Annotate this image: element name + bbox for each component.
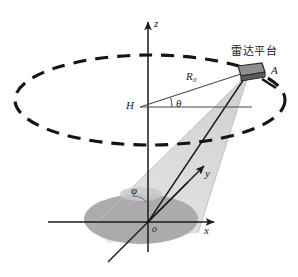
altitude-label-H: H (126, 100, 134, 111)
diagram-canvas (0, 0, 298, 277)
theta-angle-label: θ (176, 98, 181, 109)
orbit-point-label-A: A (271, 65, 278, 76)
radar-platform-label: 雷达平台 (231, 46, 277, 57)
axis-label-y: y (205, 168, 210, 179)
phi-angle-label: φ (131, 185, 137, 196)
range-R-subscript: 0 (193, 76, 196, 83)
beam-inner-arc (120, 187, 162, 201)
radar-platform-icon (238, 63, 265, 81)
origin-label: o (152, 224, 157, 234)
theta-angle-arc (171, 98, 173, 108)
beam-ground-footprint (84, 194, 198, 244)
radar-geometry-figure: z x y o H A R0 θ φ 雷达平台 (0, 0, 298, 277)
axis-label-z: z (154, 18, 158, 29)
slant-range-label-R0: R0 (186, 71, 196, 84)
range-R-symbol: R (186, 70, 193, 82)
axis-label-x: x (204, 225, 209, 236)
